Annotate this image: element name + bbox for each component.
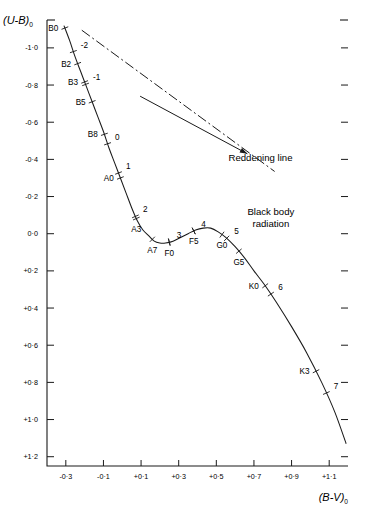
x-tick-label: +0·3 (171, 472, 186, 481)
reddening-line-label: Reddening line (229, 152, 293, 163)
x-tick-label: +0·1 (134, 472, 149, 481)
spectral-label-B5: B5 (76, 98, 86, 107)
spectral-label-G5: G5 (233, 258, 244, 267)
y-tick-label: -0·4 (25, 155, 38, 164)
numeric-label-neg1: -1 (93, 73, 101, 82)
spectral-label-K0: K0 (249, 282, 259, 291)
y-tick-label: +1·2 (23, 452, 38, 461)
numeric-label-5: 5 (234, 227, 239, 236)
color-color-diagram: -0·3-0·1+0·1+0·3+0·5+0·7+0·9+1·1 -1·0-0·… (0, 0, 366, 514)
y-tick-label: -0·8 (25, 81, 38, 90)
y-tick-label: +0·8 (23, 378, 38, 387)
spectral-label-B3: B3 (68, 78, 78, 87)
y-tick-label: -1·0 (25, 43, 38, 52)
y-tick-label: -0·2 (25, 192, 38, 201)
spectral-label-F5: F5 (189, 237, 199, 246)
black-body-label-line1: Black body (247, 206, 294, 217)
y-tick-label: -0·6 (25, 118, 38, 127)
chart-root: -0·3-0·1+0·1+0·3+0·5+0·7+0·9+1·1 -1·0-0·… (0, 0, 366, 514)
numeric-label-7: 7 (334, 382, 339, 391)
spectral-label-A3: A3 (131, 225, 141, 234)
y-tick-label: +1·0 (23, 415, 38, 424)
chart-background (0, 0, 366, 514)
spectral-label-G0: G0 (216, 241, 227, 250)
x-tick-label: +0·5 (209, 472, 224, 481)
numeric-label-4: 4 (201, 220, 206, 229)
x-tick-label: +1·1 (322, 472, 337, 481)
numeric-label-1: 1 (126, 162, 131, 171)
spectral-label-B0: B0 (48, 24, 58, 33)
spectral-label-B8: B8 (88, 130, 98, 139)
x-tick-label: -0·3 (59, 472, 72, 481)
x-tick-label: +0·7 (247, 472, 262, 481)
y-axis-title: (U-B)0 (3, 14, 33, 28)
x-axis-title: (B-V)0 (319, 491, 349, 505)
black-body-label-line2: radiation (252, 218, 289, 229)
x-tick-label: +0·9 (284, 472, 299, 481)
spectral-label-A7: A7 (147, 246, 157, 255)
spectral-label-K3: K3 (300, 367, 310, 376)
y-tick-label: +0·6 (23, 341, 38, 350)
numeric-label-6: 6 (278, 283, 283, 292)
y-tick-label: 0·0 (28, 229, 38, 238)
numeric-label-0: 0 (115, 133, 120, 142)
numeric-label-2: 2 (143, 205, 148, 214)
spectral-label-F0: F0 (165, 249, 175, 258)
spectral-label-B2: B2 (61, 60, 71, 69)
numeric-label-neg2: -2 (81, 41, 89, 50)
y-tick-label: +0·4 (23, 304, 38, 313)
x-tick-label: -0·1 (97, 472, 110, 481)
numeric-label-3: 3 (177, 231, 182, 240)
y-tick-label: +0·2 (23, 266, 38, 275)
spectral-label-A0: A0 (104, 174, 114, 183)
